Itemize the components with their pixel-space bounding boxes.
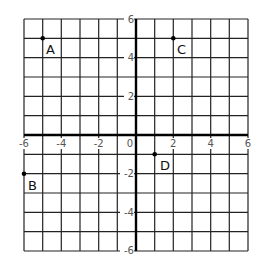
y-tick-label: 4 (128, 52, 134, 63)
point-d (152, 152, 157, 157)
point-d-label: D (160, 158, 170, 173)
x-tick-label: 2 (170, 138, 176, 149)
x-tick-label: -4 (56, 138, 66, 149)
y-tick-label: -4 (124, 207, 134, 218)
point-a (40, 36, 45, 41)
y-tick-label: -6 (124, 245, 134, 256)
x-tick-label: -2 (94, 138, 104, 149)
point-b-label: B (28, 178, 37, 193)
point-a-label: A (46, 42, 55, 57)
x-tick-label: 4 (208, 138, 214, 149)
x-tick-label: 0 (127, 138, 133, 149)
axes (24, 19, 248, 251)
y-tick-label: 6 (128, 14, 134, 25)
coordinate-plane: -6 -4 -2 0 2 4 6 6 4 2 -2 -4 -6 A B C (0, 0, 267, 272)
y-tick-label: -2 (124, 168, 134, 179)
x-tick-labels: -6 -4 -2 0 2 4 6 (16, 138, 252, 149)
point-b (22, 171, 27, 176)
x-tick-label: 6 (245, 138, 251, 149)
y-tick-label: 2 (128, 91, 134, 102)
data-points: A B C D (22, 36, 186, 193)
point-c (171, 36, 176, 41)
point-c-label: C (177, 42, 186, 57)
x-tick-label: -6 (19, 138, 29, 149)
